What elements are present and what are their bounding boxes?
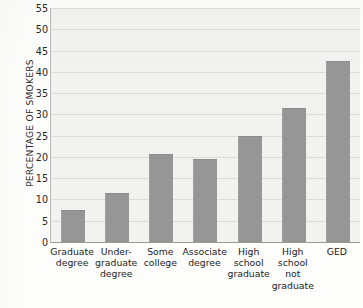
x-tick-label-line: college	[138, 257, 182, 268]
y-tick-label: 0	[20, 237, 48, 248]
x-tick-label-line: degree	[50, 257, 94, 268]
y-tick-label: 50	[20, 24, 48, 35]
plot-area	[50, 8, 360, 243]
bar[interactable]	[149, 154, 173, 242]
bar-slot	[51, 8, 95, 242]
bar-slot	[139, 8, 183, 242]
bar[interactable]	[105, 193, 129, 242]
bar[interactable]	[282, 108, 306, 242]
bar-slot	[95, 8, 139, 242]
y-tick-label: 15	[20, 173, 48, 184]
y-tick-label: 35	[20, 88, 48, 99]
x-tick-label: GED	[315, 246, 359, 257]
x-tick-label-line: Under-	[94, 246, 138, 257]
y-axis-tick-labels: 0510152025303540455055	[18, 0, 48, 308]
x-tick-label: Highschoolnotgraduate	[271, 246, 315, 291]
y-tick-label: 10	[20, 194, 48, 205]
x-tick-label-line: not	[271, 268, 315, 279]
y-tick-label: 5	[20, 215, 48, 226]
y-tick-label: 55	[20, 3, 48, 14]
bar[interactable]	[238, 136, 262, 242]
x-tick-label-line: High	[271, 246, 315, 257]
x-tick-label-line: Graduate	[50, 246, 94, 257]
x-tick-label: Highschoolgraduate	[227, 246, 271, 280]
x-tick-label-line: Some	[138, 246, 182, 257]
x-tick-label-line: graduate	[271, 280, 315, 291]
x-tick-label: Associatedegree	[182, 246, 226, 268]
x-tick-label-line: school	[227, 257, 271, 268]
x-tick-label-line: Associate	[182, 246, 226, 257]
bar[interactable]	[61, 210, 85, 242]
bar-slot	[228, 8, 272, 242]
x-tick-label-line: graduate	[94, 257, 138, 268]
x-tick-label: Somecollege	[138, 246, 182, 268]
bar-chart: PERCENTAGE OF SMOKERS 051015202530354045…	[0, 0, 363, 308]
bar[interactable]	[193, 159, 217, 242]
y-tick-label: 45	[20, 45, 48, 56]
x-tick-label-line: school	[271, 257, 315, 268]
x-tick-label-line: degree	[94, 268, 138, 279]
bar[interactable]	[326, 61, 350, 242]
bar-slot	[272, 8, 316, 242]
bars-layer	[51, 8, 360, 242]
x-axis-tick-labels: GraduatedegreeUnder-graduatedegreeSomeco…	[50, 246, 359, 306]
x-tick-label-line: degree	[182, 257, 226, 268]
y-tick-label: 30	[20, 109, 48, 120]
bar-slot	[316, 8, 360, 242]
x-tick-label-line: graduate	[227, 268, 271, 279]
x-tick-label: Under-graduatedegree	[94, 246, 138, 280]
y-tick-label: 40	[20, 66, 48, 77]
gridline	[51, 242, 360, 243]
y-tick-label: 25	[20, 130, 48, 141]
y-tick-label: 20	[20, 151, 48, 162]
x-tick-label: Graduatedegree	[50, 246, 94, 268]
bar-slot	[183, 8, 227, 242]
x-tick-label-line: GED	[315, 246, 359, 257]
x-tick-label-line: High	[227, 246, 271, 257]
